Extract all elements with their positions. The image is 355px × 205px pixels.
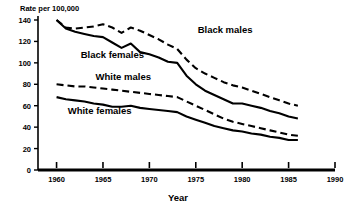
data-series-group [57,20,298,140]
series-label: Black females [81,49,144,60]
series-label: White females [68,105,132,116]
x-axis-title-label: Year [168,192,188,203]
y-axis-title: Rate per 100,000 [20,4,79,13]
x-axis-tick-label: 1985 [280,175,297,184]
y-axis-tick-label: 20 [23,145,31,154]
series-label: Black males [198,24,253,35]
y-axis-tick-label: 40 [23,123,31,132]
x-axis-tick-label: 1960 [48,175,65,184]
chart-canvas: Rate per 100,000 020406080100120140 1960… [0,0,355,205]
y-axis: 020406080100120140 [18,16,38,175]
x-axis-tick-label: 1990 [327,175,344,184]
line-chart: Rate per 100,000 020406080100120140 1960… [0,0,355,205]
y-axis-title-label: Rate per 100,000 [20,4,79,13]
y-axis-tick-label: 0 [27,166,31,175]
y-axis-tick-label: 60 [23,102,31,111]
y-axis-tick-label: 120 [18,37,31,46]
y-axis-tick-label: 80 [23,80,31,89]
x-axis-tick-label: 1975 [187,175,204,184]
x-axis-tick-label: 1980 [234,175,251,184]
x-axis-tick-label: 1970 [141,175,158,184]
x-axis: 1960196519701975198019851990 [38,162,343,184]
x-axis-tick-label: 1965 [95,175,112,184]
series-label: White males [96,71,151,82]
series-label-group: Black malesBlack femalesWhite malesWhite… [68,24,253,116]
y-axis-tick-label: 100 [18,59,31,68]
series-line [57,97,298,140]
y-axis-tick-label: 140 [18,16,31,25]
